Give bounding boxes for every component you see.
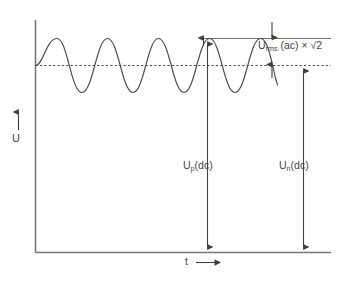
label-urms-ac: Urms (ac) × √2	[258, 40, 322, 51]
y-axis-label: U	[12, 133, 20, 144]
x-axis-label: t	[185, 257, 188, 267]
x-axis-arrow-icon	[196, 259, 221, 266]
label-un-dc: Un(dc)	[279, 160, 309, 171]
label-up-dc: Up(dc)	[183, 160, 213, 171]
label-urms-sub: rms	[266, 45, 278, 53]
label-up-main: U	[183, 159, 191, 171]
label-un-tail: (dc)	[291, 159, 309, 171]
label-up-tail: (dc)	[195, 159, 213, 171]
axis-lines	[36, 20, 332, 253]
label-urms-main: U	[258, 39, 266, 51]
label-un-sub: n	[287, 165, 291, 173]
label-urms-tail: (ac) × √2	[277, 39, 322, 51]
diagram-canvas: Urms (ac) × √2 Up(dc) Un(dc) U t	[0, 0, 351, 284]
label-up-sub: p	[191, 165, 195, 173]
label-un-main: U	[279, 159, 287, 171]
